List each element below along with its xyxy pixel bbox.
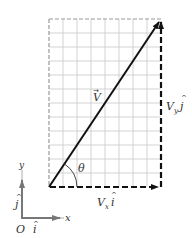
coordinate-axes: y x O i ^ j ^ — [12, 160, 71, 236]
angle-arc — [65, 164, 78, 187]
svg-text:^: ^ — [16, 193, 22, 201]
svg-text:^: ^ — [181, 94, 187, 102]
svg-text:x: x — [105, 203, 109, 211]
origin-label: O — [16, 223, 25, 236]
vector-diagram: θ V → V y j ^ V x i ^ y x O i ^ j ^ — [0, 0, 192, 238]
y-axis-label: y — [18, 160, 25, 170]
y-component-label: V y j ^ — [166, 94, 187, 115]
x-component-label: V x i ^ — [97, 191, 117, 211]
svg-text:y: y — [173, 107, 179, 115]
angle-label: θ — [78, 162, 85, 175]
vector-label: V → — [93, 87, 102, 104]
svg-text:^: ^ — [33, 220, 39, 228]
x-axis-label: x — [65, 212, 71, 223]
svg-text:^: ^ — [111, 191, 117, 199]
svg-text:→: → — [93, 87, 99, 95]
